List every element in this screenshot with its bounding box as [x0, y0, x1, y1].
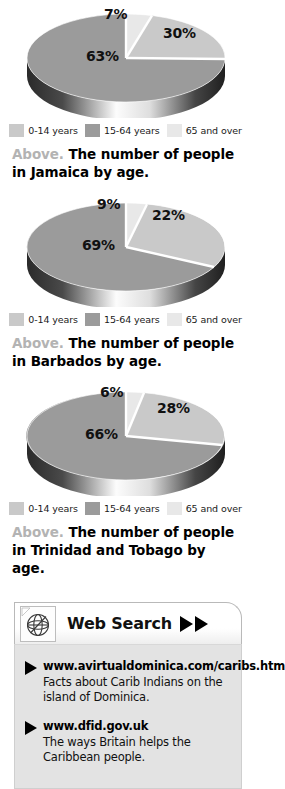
legend-trinidad-and-tobago: 0-14 years 15-64 years 65 and over [0, 496, 251, 518]
pie-chart-jamaica: 30% 63% 7% [0, 0, 251, 118]
legend-item-0-14: 0-14 years [9, 124, 78, 137]
search-result-url[interactable]: www.dfid.gov.uk [43, 719, 148, 733]
bullet-arrow-icon [25, 661, 37, 675]
legend-item-15-64: 15-64 years [85, 313, 160, 326]
legend-label-0-14: 0-14 years [28, 314, 78, 325]
legend-swatch-65-over [167, 313, 182, 326]
legend-swatch-0-14 [9, 502, 24, 515]
legend-swatch-65-over [167, 124, 182, 137]
pie-chart-trinidad-and-tobago-svg [0, 378, 251, 496]
legend-item-15-64: 15-64 years [85, 124, 160, 137]
legend-label-65-over: 65 and over [186, 503, 242, 514]
pie-slice-label-15-64: 69% [82, 237, 115, 253]
legend-jamaica: 0-14 years 15-64 years 65 and over [0, 118, 251, 140]
legend-item-65-over: 65 and over [167, 313, 242, 326]
legend-item-65-over: 65 and over [167, 502, 242, 515]
pie-slice-label-0-14: 30% [163, 25, 196, 41]
search-result-description: Facts about Carib Indians on the island … [43, 675, 231, 705]
legend-item-15-64: 15-64 years [85, 502, 160, 515]
search-result-url[interactable]: www.avirtualdominica.com/caribs.htm [43, 659, 285, 673]
bullet-arrow-icon [25, 721, 37, 735]
legend-item-0-14: 0-14 years [9, 313, 78, 326]
legend-label-65-over: 65 and over [186, 314, 242, 325]
search-result-item[interactable]: www.avirtualdominica.com/caribs.htm Fact… [25, 659, 231, 705]
legend-label-0-14: 0-14 years [28, 125, 78, 136]
web-search-header: Web Search [14, 602, 242, 644]
legend-swatch-15-64 [85, 313, 100, 326]
caption-above-label: Above. [12, 524, 64, 540]
chart-block-jamaica: 30% 63% 7% 0-14 years 15-64 years 65 and… [0, 0, 251, 181]
legend-swatch-0-14 [9, 313, 24, 326]
pie-slice-label-15-64: 66% [85, 426, 118, 442]
pie-slice-label-65-over: 9% [97, 196, 120, 212]
legend-label-15-64: 15-64 years [104, 503, 160, 514]
legend-item-0-14: 0-14 years [9, 502, 78, 515]
pie-slice-label-0-14: 22% [152, 207, 185, 223]
legend-item-65-over: 65 and over [167, 124, 242, 137]
globe-icon [20, 606, 56, 642]
web-search-title: Web Search [67, 614, 172, 633]
legend-swatch-15-64 [85, 124, 100, 137]
legend-swatch-0-14 [9, 124, 24, 137]
legend-swatch-65-over [167, 502, 182, 515]
search-result-description: The ways Britain helps the Caribbean peo… [43, 735, 231, 765]
legend-barbados: 0-14 years 15-64 years 65 and over [0, 307, 251, 329]
legend-swatch-15-64 [85, 502, 100, 515]
web-search-panel: Web Search www.avirtualdominica.com/cari… [14, 602, 242, 789]
pie-chart-barbados: 22% 69% 9% [0, 189, 251, 307]
caption-trinidad-and-tobago: Above. The number of people in Trinidad … [0, 518, 251, 577]
chart-block-barbados: 22% 69% 9% 0-14 years 15-64 years 65 and… [0, 189, 251, 370]
caption-jamaica: Above. The number of people in Jamaica b… [0, 140, 251, 181]
legend-label-15-64: 15-64 years [104, 125, 160, 136]
caption-above-label: Above. [12, 146, 64, 162]
legend-label-15-64: 15-64 years [104, 314, 160, 325]
pie-slice-label-15-64: 63% [86, 48, 119, 64]
pie-chart-barbados-svg [0, 189, 251, 307]
web-search-results: www.avirtualdominica.com/caribs.htm Fact… [14, 644, 242, 789]
pie-chart-trinidad-and-tobago: 28% 66% 6% [0, 378, 251, 496]
search-result-item[interactable]: www.dfid.gov.uk The ways Britain helps t… [25, 719, 231, 765]
pie-slice-label-65-over: 7% [104, 6, 127, 22]
double-right-arrow-icon[interactable] [180, 616, 208, 632]
caption-above-label: Above. [12, 335, 64, 351]
chart-block-trinidad-and-tobago: 28% 66% 6% 0-14 years 15-64 years 65 and… [0, 378, 251, 577]
pie-slice-label-65-over: 6% [100, 384, 123, 400]
legend-label-65-over: 65 and over [186, 125, 242, 136]
pie-slice-label-0-14: 28% [157, 400, 190, 416]
legend-label-0-14: 0-14 years [28, 503, 78, 514]
caption-barbados: Above. The number of people in Barbados … [0, 329, 251, 370]
